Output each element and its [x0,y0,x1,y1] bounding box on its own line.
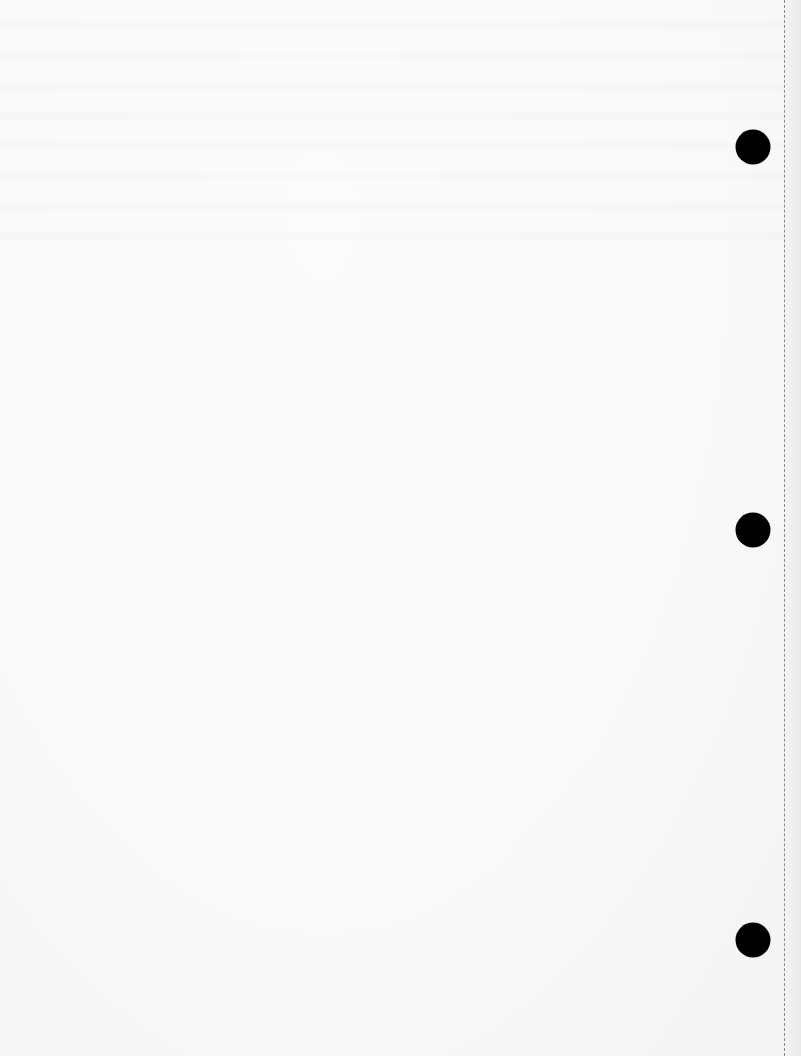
punch-hole-icon [736,130,771,165]
bleed-through-texture [0,0,801,260]
punch-hole-icon [736,923,771,958]
page-edge-strip [785,0,801,1056]
scanned-page [0,0,801,1056]
perforation-line [784,0,785,1056]
punch-hole-icon [736,513,771,548]
